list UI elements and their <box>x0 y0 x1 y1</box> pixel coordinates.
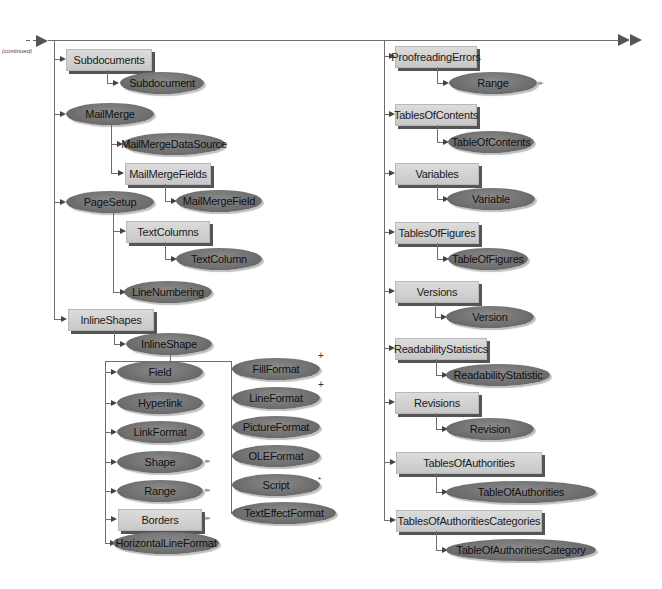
node-mailmergefields[interactable]: MailMergeFields <box>125 163 211 185</box>
node-tableofcontents[interactable]: TableOfContents <box>448 131 534 153</box>
node-hyperlink[interactable]: Hyperlink <box>117 392 203 414</box>
node-proofreadingerrors[interactable]: ProofreadingErrors <box>395 46 477 68</box>
expand-marker-icon[interactable]: ▸▸ <box>205 514 209 522</box>
node-readabilitystatistic[interactable]: ReadabilityStatistic <box>446 364 550 386</box>
connector <box>165 184 166 201</box>
left-trunk <box>54 40 55 320</box>
connector <box>437 125 438 142</box>
node-script[interactable]: Script <box>232 474 320 496</box>
node-inlineshapes[interactable]: InlineShapes <box>68 309 154 331</box>
node-mailmerge[interactable]: MailMerge <box>66 103 154 125</box>
node-textcolumns[interactable]: TextColumns <box>126 221 210 243</box>
node-lineformat[interactable]: LineFormat <box>232 387 320 409</box>
connector <box>114 330 115 344</box>
node-tablesofauthoritiescategories[interactable]: TablesOfAuthoritiesCategories <box>396 510 542 532</box>
node-revision[interactable]: Revision <box>446 418 534 440</box>
arrow-icon <box>118 170 124 176</box>
node-fillformat[interactable]: FillFormat <box>232 358 320 380</box>
node-variable[interactable]: Variable <box>447 188 535 210</box>
connector <box>436 531 437 550</box>
expand-marker-icon[interactable]: ▸▸ <box>205 486 209 494</box>
connector <box>113 213 114 292</box>
node-range[interactable]: Range <box>117 480 203 502</box>
node-range-proofreading[interactable]: Range <box>449 72 537 94</box>
right-trunk <box>384 40 385 520</box>
node-textcolumn[interactable]: TextColumn <box>176 248 262 270</box>
node-linkformat[interactable]: LinkFormat <box>117 421 203 443</box>
start-arrow-icon <box>36 35 48 47</box>
connector <box>437 67 438 83</box>
expand-marker-icon[interactable]: ▸▸ <box>538 79 542 87</box>
plus-marker-icon: + <box>318 379 324 390</box>
connector <box>105 361 106 543</box>
node-tableofauthorities[interactable]: TableOfAuthorities <box>446 481 596 503</box>
node-linenumbering[interactable]: LineNumbering <box>124 281 212 303</box>
continued-label: (continued) <box>2 48 32 54</box>
node-inlineshape[interactable]: InlineShape <box>126 333 212 355</box>
top-connector <box>48 40 618 41</box>
arrow-icon <box>111 516 117 522</box>
node-borders[interactable]: Borders <box>118 509 202 531</box>
node-mailmergefield[interactable]: MailMergeField <box>176 190 262 212</box>
node-tablesofcontents[interactable]: TablesOfContents <box>395 104 477 126</box>
node-oleformat[interactable]: OLEFormat <box>232 445 320 467</box>
connector <box>107 70 108 83</box>
node-version[interactable]: Version <box>446 306 534 328</box>
arrow-icon <box>61 316 67 322</box>
node-texteffectformat[interactable]: TextEffectFormat <box>232 502 336 524</box>
connector <box>231 361 232 513</box>
node-tableoffigures[interactable]: TableOfFigures <box>448 248 528 270</box>
connector <box>437 184 438 199</box>
arrow-icon <box>113 80 119 86</box>
asterisk-marker-icon: * <box>318 475 321 484</box>
node-versions[interactable]: Versions <box>395 281 479 303</box>
node-revisions[interactable]: Revisions <box>395 392 479 414</box>
top-connector-dashed <box>26 40 36 41</box>
node-tablesofauthorities[interactable]: TablesOfAuthorities <box>396 452 542 474</box>
connector <box>436 413 437 429</box>
connector <box>437 243 438 259</box>
node-horizontallineformat[interactable]: HorizontalLineFormat <box>113 532 219 554</box>
continue-arrow-icon-2 <box>630 34 642 46</box>
node-variables[interactable]: Variables <box>395 163 479 185</box>
node-subdocuments[interactable]: Subdocuments <box>66 49 152 71</box>
node-subdocument[interactable]: Subdocument <box>120 72 204 94</box>
node-field[interactable]: Field <box>117 361 203 383</box>
connector <box>436 473 437 492</box>
node-pagesetup[interactable]: PageSetup <box>66 191 154 213</box>
node-tableofauthoritiescategory[interactable]: TableOfAuthoritiesCategory <box>446 539 596 561</box>
connector <box>435 302 436 317</box>
node-readabilitystatistics[interactable]: ReadabilityStatistics <box>395 338 487 360</box>
continue-arrow-icon <box>618 34 630 46</box>
plus-marker-icon: + <box>318 350 324 361</box>
connector <box>111 125 112 173</box>
expand-marker-icon[interactable]: ▸▸ <box>205 457 209 465</box>
connector <box>165 242 166 259</box>
node-tablesoffigures[interactable]: TablesOfFigures <box>395 222 479 244</box>
node-shape[interactable]: Shape <box>117 451 203 473</box>
connector <box>436 359 437 375</box>
node-pictureformat[interactable]: PictureFormat <box>232 416 320 438</box>
node-mailmergedatasource[interactable]: MailMergeDataSource <box>123 133 225 155</box>
